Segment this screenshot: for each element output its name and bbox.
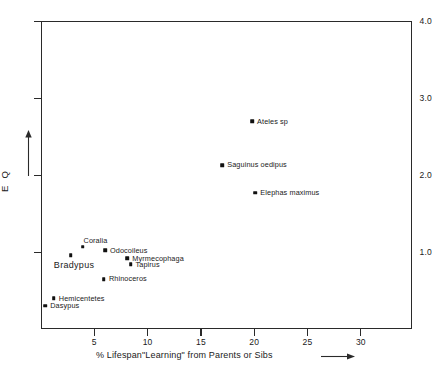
y-axis-tick <box>34 252 42 253</box>
data-point-label: Coralia <box>84 236 108 245</box>
x-axis-tick <box>147 329 148 336</box>
y-axis-tick-label: 3.0 <box>402 93 432 103</box>
x-axis-tick-label: 25 <box>295 337 321 347</box>
x-axis-tick <box>254 329 255 336</box>
y-axis-tick <box>34 175 42 176</box>
data-point-label: Rhinoceros <box>109 274 147 283</box>
data-point[interactable] <box>43 304 47 308</box>
x-axis-tick <box>307 329 308 336</box>
x-axis-tick-label: 10 <box>135 337 161 347</box>
x-axis-tick-label: 30 <box>348 337 374 347</box>
x-axis-tick <box>94 329 95 336</box>
y-axis-tick-label: 1.0 <box>402 247 432 257</box>
data-point[interactable] <box>220 163 224 167</box>
data-point-label: Ateles sp <box>257 117 288 126</box>
data-point[interactable] <box>129 263 133 267</box>
y-axis-up-arrow-icon <box>24 130 33 176</box>
data-point-label: Bradypus <box>54 260 94 270</box>
y-axis-title: E Q <box>0 169 10 192</box>
y-axis-tick-label: 4.0 <box>402 16 432 26</box>
data-point-label: Tapirus <box>136 260 160 269</box>
plot-area <box>41 21 412 329</box>
x-axis-title: % Lifespan"Learning" from Parents or Sib… <box>96 350 273 360</box>
data-point[interactable] <box>69 253 73 257</box>
data-point[interactable] <box>81 245 85 249</box>
data-point-label: Dasypus <box>50 301 79 310</box>
y-axis-tick <box>34 98 42 99</box>
data-point[interactable] <box>52 296 56 300</box>
x-axis-tick-label: 20 <box>241 337 267 347</box>
data-point[interactable] <box>253 191 257 195</box>
x-axis-right-arrow-icon <box>321 352 355 361</box>
x-axis-tick-label: 15 <box>188 337 214 347</box>
data-point[interactable] <box>103 249 107 253</box>
y-axis-tick <box>34 21 42 22</box>
y-axis-tick-label: 2.0 <box>402 170 432 180</box>
data-point[interactable] <box>250 119 254 123</box>
data-point-label: Saguinus oedipus <box>227 160 287 169</box>
data-point[interactable] <box>126 256 130 260</box>
data-point[interactable] <box>102 277 106 281</box>
data-point-label: Elephas maximus <box>260 188 319 197</box>
x-axis-tick <box>200 329 201 336</box>
x-axis-tick-label: 5 <box>81 337 107 347</box>
scatter-plot-figure: 4.03.02.01.0 51015202530 E Q % Lifespan"… <box>0 0 432 368</box>
x-axis-tick <box>360 329 361 336</box>
